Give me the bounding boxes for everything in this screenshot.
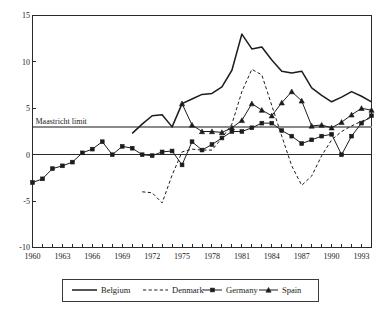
series-denmark [142, 69, 371, 203]
data-point-marker [300, 142, 304, 146]
data-point-marker [150, 154, 154, 158]
series-line-denmark [142, 69, 371, 203]
y-tick-label: 15 [22, 11, 30, 20]
x-tick-label: 1990 [324, 252, 340, 261]
x-tick-label: 1984 [264, 252, 280, 261]
chart-svg: 151050-5-10 1960196319661969197219751978… [0, 0, 392, 315]
x-tick-label: 1972 [144, 252, 160, 261]
series-belgium [132, 34, 371, 133]
x-tick-label: 1966 [84, 252, 100, 261]
data-point-marker [370, 114, 374, 118]
data-point-marker [360, 121, 364, 125]
data-point-marker [320, 134, 324, 138]
data-point-marker [130, 146, 134, 150]
data-point-marker [80, 151, 84, 155]
legend-label: Denmark [172, 285, 204, 295]
data-point-marker [290, 134, 294, 138]
chart-legend: BelgiumDenmarkGermanySpain [62, 279, 318, 301]
data-point-marker [51, 167, 55, 171]
data-point-marker [210, 143, 214, 147]
data-point-marker [41, 177, 45, 181]
data-point-marker [220, 136, 224, 140]
data-point-marker [100, 140, 104, 144]
x-tick-label: 1978 [204, 252, 220, 261]
series-line-belgium [132, 34, 371, 133]
data-point-marker [31, 181, 35, 185]
data-point-marker [310, 138, 314, 142]
data-point-marker [359, 106, 364, 111]
data-point-marker [211, 288, 215, 292]
data-point-marker [180, 163, 184, 167]
legend-label: Belgium [101, 285, 131, 295]
data-point-marker [270, 121, 274, 125]
data-point-marker [239, 118, 244, 123]
x-axis-ticks: 1960196319661969197219751978198119841987… [25, 244, 372, 260]
x-tick-label: 1969 [114, 252, 130, 261]
x-tick-label: 1987 [294, 252, 310, 261]
data-point-marker [249, 101, 254, 106]
data-point-marker [170, 149, 174, 153]
data-point-marker [289, 89, 294, 94]
data-point-marker [250, 126, 254, 130]
data-point-marker [120, 144, 124, 148]
y-tick-label: -5 [23, 197, 30, 206]
data-point-marker [260, 121, 264, 125]
data-point-marker [189, 122, 194, 127]
data-point-marker [160, 150, 164, 154]
data-point-marker [330, 132, 334, 136]
maastricht-limit-label: Maastricht limit [36, 117, 88, 126]
legend-label: Spain [282, 285, 302, 295]
data-point-marker [61, 164, 65, 168]
data-point-marker [140, 153, 144, 157]
x-tick-label: 1960 [25, 252, 41, 261]
data-point-marker [280, 129, 284, 133]
y-tick-label: 10 [22, 58, 30, 67]
x-tick-label: 1963 [54, 252, 70, 261]
data-point-marker [240, 130, 244, 134]
data-point-marker [259, 108, 264, 113]
y-axis-ticks: 151050-5-10 [19, 11, 35, 252]
data-point-marker [340, 153, 344, 157]
data-point-marker [110, 153, 114, 157]
data-point-marker [190, 140, 194, 144]
y-tick-label: 5 [26, 104, 30, 113]
chart-figure: 151050-5-10 1960196319661969197219751978… [0, 0, 392, 315]
x-tick-label: 1981 [234, 252, 250, 261]
y-tick-label: 0 [26, 151, 30, 160]
legend-label: Germany [226, 285, 258, 295]
data-point-marker [349, 112, 354, 117]
x-tick-label: 1993 [354, 252, 370, 261]
data-point-marker [70, 160, 74, 164]
data-point-marker [350, 134, 354, 138]
data-point-marker [200, 148, 204, 152]
data-point-marker [90, 147, 94, 151]
x-tick-label: 1975 [174, 252, 190, 261]
